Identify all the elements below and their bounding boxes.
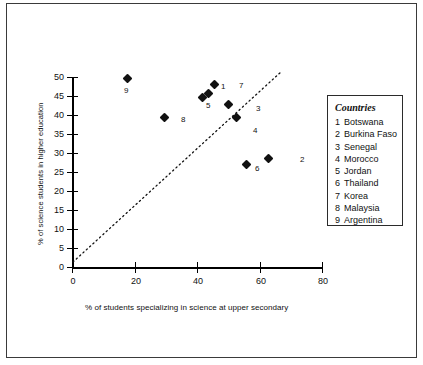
data-point-argentina[interactable] — [123, 73, 133, 83]
legend-number: 9 — [335, 214, 344, 226]
point-label-3: 3 — [256, 104, 260, 113]
y-axis-title: % of science students in higher educatio… — [36, 102, 45, 245]
y-tick-40 — [67, 115, 78, 116]
x-tick-40 — [197, 262, 198, 273]
legend-item-argentina: 9Argentina — [335, 214, 402, 226]
legend-number: 4 — [335, 153, 344, 165]
legend-label: Botswana — [344, 117, 384, 127]
x-tick-label-0: 0 — [63, 276, 83, 286]
legend-label: Jordan — [344, 166, 372, 176]
legend-item-morocco: 4Morocco — [335, 153, 402, 165]
y-tick-25 — [67, 172, 78, 173]
y-tick-35 — [67, 134, 78, 135]
legend-number: 2 — [335, 128, 344, 140]
data-point-malaysia[interactable] — [160, 113, 170, 123]
legend-item-jordan: 5Jordan — [335, 165, 402, 177]
y-tick-label-20: 20 — [49, 186, 64, 196]
y-tick-label-5: 5 — [49, 243, 64, 253]
data-point-morocco[interactable] — [232, 113, 242, 123]
y-tick-5 — [67, 248, 78, 249]
y-tick-label-40: 40 — [49, 110, 64, 120]
legend-item-senegal: 3Senegal — [335, 141, 402, 153]
legend-title: Countries — [335, 102, 402, 114]
y-tick-20 — [67, 191, 78, 192]
legend-box: Countries 1Botswana 2Burkina Faso 3Seneg… — [327, 95, 403, 226]
point-label-9: 9 — [124, 86, 128, 95]
y-tick-45 — [67, 96, 78, 97]
legend-item-burkina-faso: 2Burkina Faso — [335, 128, 402, 140]
y-tick-label-45: 45 — [49, 91, 64, 101]
x-axis-title: % of students specializing in science at… — [85, 303, 288, 312]
y-tick-30 — [67, 153, 78, 154]
legend-item-malaysia: 8Malaysia — [335, 202, 402, 214]
y-tick-label-15: 15 — [49, 205, 64, 215]
legend-number: 6 — [335, 177, 344, 189]
y-tick-label-0: 0 — [49, 262, 64, 272]
legend-label: Malaysia — [344, 203, 380, 213]
legend-number: 8 — [335, 202, 344, 214]
legend-item-thailand: 6Thailand — [335, 177, 402, 189]
y-tick-10 — [67, 229, 78, 230]
x-tick-label-20: 20 — [126, 276, 146, 286]
y-tick-label-10: 10 — [49, 224, 64, 234]
point-label-2: 2 — [300, 155, 304, 164]
point-label-7: 7 — [239, 81, 243, 90]
legend-number: 7 — [335, 190, 344, 202]
legend-label: Senegal — [344, 142, 377, 152]
legend-label: Korea — [344, 191, 368, 201]
x-tick-label-60: 60 — [251, 276, 271, 286]
data-point-burkina-faso[interactable] — [263, 153, 273, 163]
legend-number: 5 — [335, 165, 344, 177]
y-tick-label-50: 50 — [49, 72, 64, 82]
y-tick-label-25: 25 — [49, 167, 64, 177]
legend-label: Burkina Faso — [344, 129, 397, 139]
point-label-4: 4 — [253, 126, 257, 135]
legend-label: Morocco — [344, 154, 379, 164]
legend-number: 1 — [335, 116, 344, 128]
data-point-botswana[interactable] — [210, 79, 220, 89]
chart-figure: 50 45 40 35 30 25 20 15 10 5 0 0 20 40 6… — [0, 0, 423, 365]
point-label-5: 5 — [206, 101, 210, 110]
x-tick-0 — [72, 262, 73, 273]
legend-number: 3 — [335, 141, 344, 153]
legend-label: Argentina — [344, 215, 383, 225]
point-label-6: 6 — [255, 164, 259, 173]
point-label-8: 8 — [181, 115, 185, 124]
x-tick-label-80: 80 — [313, 276, 333, 286]
point-label-1: 1 — [221, 82, 225, 91]
y-tick-15 — [67, 210, 78, 211]
legend-item-korea: 7Korea — [335, 190, 402, 202]
x-tick-80 — [322, 262, 323, 273]
legend-label: Thailand — [344, 178, 379, 188]
x-tick-60 — [260, 262, 261, 273]
y-tick-50 — [67, 77, 78, 78]
y-tick-label-30: 30 — [49, 148, 64, 158]
x-tick-label-40: 40 — [188, 276, 208, 286]
data-point-senegal[interactable] — [224, 100, 234, 110]
legend-item-botswana: 1Botswana — [335, 116, 402, 128]
x-tick-20 — [135, 262, 136, 273]
y-tick-label-35: 35 — [49, 129, 64, 139]
data-point-thailand[interactable] — [241, 160, 251, 170]
